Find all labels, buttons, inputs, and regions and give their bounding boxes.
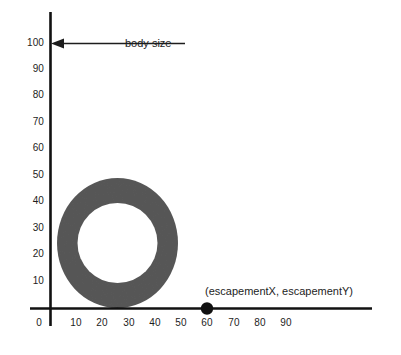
escapement-point-label: (escapementX, escapementY) bbox=[205, 285, 353, 297]
y-tick-label-70: 70 bbox=[12, 117, 44, 127]
plot-area bbox=[0, 0, 401, 355]
figure-canvas: 100 90 80 70 60 50 40 30 20 10 0 10 20 3… bbox=[0, 0, 401, 355]
x-tick-label-50: 50 bbox=[175, 318, 186, 328]
y-tick-label-30: 30 bbox=[12, 223, 44, 233]
y-tick-label-40: 40 bbox=[12, 196, 44, 206]
y-tick-label-60: 60 bbox=[12, 143, 44, 153]
x-tick-label-20: 20 bbox=[96, 318, 107, 328]
x-tick-label-30: 30 bbox=[123, 318, 134, 328]
y-tick-label-50: 50 bbox=[12, 170, 44, 180]
x-tick-label-40: 40 bbox=[149, 318, 160, 328]
body-size-label: body size bbox=[125, 37, 171, 49]
y-tick-label-20: 20 bbox=[12, 249, 44, 259]
y-tick-label-10: 10 bbox=[12, 276, 44, 286]
escapement-point-marker bbox=[201, 302, 213, 314]
annulus-shape bbox=[50, 170, 190, 315]
x-tick-label-60: 60 bbox=[201, 318, 212, 328]
x-tick-label-0: 0 bbox=[36, 318, 42, 328]
x-tick-label-90: 90 bbox=[280, 318, 291, 328]
y-tick-label-80: 80 bbox=[12, 90, 44, 100]
y-tick-label-100: 100 bbox=[12, 38, 44, 48]
x-tick-label-10: 10 bbox=[70, 318, 81, 328]
x-tick-label-70: 70 bbox=[228, 318, 239, 328]
x-tick-label-80: 80 bbox=[254, 318, 265, 328]
y-tick-label-90: 90 bbox=[12, 64, 44, 74]
